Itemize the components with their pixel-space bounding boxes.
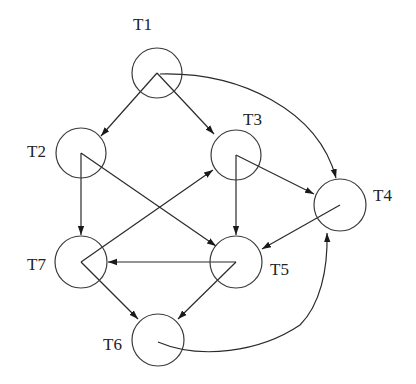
- task-graph-diagram: T1 T2 T3 T4 T5 T6 T7: [0, 0, 416, 384]
- node-label: T4: [373, 186, 392, 205]
- edge-t7-t3: [81, 170, 213, 262]
- edge-t5-t6: [178, 262, 236, 319]
- nodes: T1 T2 T3 T4 T5 T6 T7: [27, 15, 392, 366]
- edges: [81, 73, 340, 352]
- node-label: T2: [27, 142, 46, 161]
- edge-t7-t6: [81, 262, 138, 319]
- edge-t1-t2: [101, 73, 157, 136]
- node-t1: T1: [132, 15, 182, 98]
- edge-t4-t5: [262, 205, 340, 249]
- edge-t3-t4: [236, 155, 314, 194]
- edge-t1-t3: [157, 73, 214, 134]
- node-t4: T4: [314, 179, 392, 231]
- node-circle: [132, 314, 184, 366]
- node-t7: T7: [27, 236, 107, 288]
- node-label: T7: [27, 255, 46, 274]
- node-t6: T6: [103, 314, 184, 366]
- node-label: T6: [103, 335, 122, 354]
- node-label: T1: [133, 15, 152, 34]
- node-label: T5: [270, 260, 289, 279]
- node-label: T3: [243, 110, 262, 129]
- node-t2: T2: [27, 128, 106, 178]
